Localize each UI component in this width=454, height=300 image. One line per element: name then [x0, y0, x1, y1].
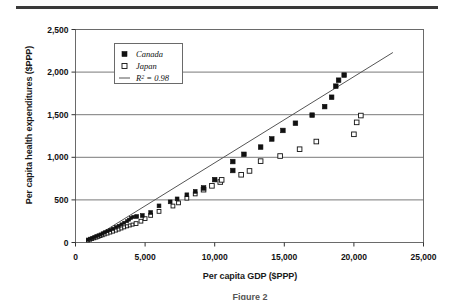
x-tick-label-20000: 20,000 [341, 252, 367, 262]
x-axis-title: Per capita GDP ($PPP) [75, 271, 425, 281]
data-point-canada-28 [201, 186, 206, 191]
data-point-canada-19 [132, 215, 135, 218]
data-point-canada-40 [334, 84, 339, 89]
data-point-canada-22 [149, 211, 153, 215]
x-tick-label-15000: 15,000 [271, 252, 297, 262]
x-tick-label-0: 0 [73, 252, 78, 262]
data-point-canada-25 [175, 197, 179, 201]
y-tick-label-500: 500 [54, 195, 68, 205]
data-point-canada-21 [140, 214, 144, 218]
y-tick-label-2000: 2,000 [47, 67, 69, 77]
data-point-japan-33 [247, 169, 252, 174]
scatter-chart: 05,00010,00015,00020,00025,000 05001,000… [0, 0, 454, 300]
data-point-japan-25 [177, 201, 181, 205]
x-tick-label-25000: 25,000 [411, 252, 437, 262]
data-point-japan-24 [171, 204, 175, 208]
data-point-canada-26 [185, 193, 189, 197]
data-point-japan-31 [219, 178, 224, 183]
y-tick-label-2500: 2,500 [47, 25, 69, 35]
data-point-canada-36 [293, 121, 298, 126]
data-point-japan-40 [359, 113, 364, 118]
data-point-japan-23 [157, 210, 161, 214]
data-point-japan-35 [278, 154, 283, 159]
data-point-canada-30 [230, 168, 235, 173]
legend-marker-japan [122, 64, 127, 69]
data-point-japan-38 [352, 132, 357, 137]
x-axis-tick-labels: 05,00010,00015,00020,00025,000 [73, 252, 437, 262]
data-point-japan-20 [139, 219, 143, 223]
chart-legend: CanadaJapanR2 = 0.98 [115, 44, 183, 84]
legend-label-r-0-98: R2 = 0.98 [135, 73, 170, 83]
data-point-canada-42 [342, 73, 347, 78]
data-point-canada-20 [135, 215, 139, 219]
data-point-canada-34 [269, 137, 274, 142]
data-point-japan-36 [297, 147, 302, 152]
x-tick-label-5000: 5,000 [134, 252, 156, 262]
data-point-japan-37 [314, 139, 319, 144]
y-tick-label-0: 0 [64, 238, 69, 248]
legend-label-canada: Canada [136, 49, 163, 59]
legend-marker-canada [122, 52, 127, 57]
y-tick-label-1500: 1,500 [47, 110, 69, 120]
data-point-canada-27 [193, 189, 197, 193]
y-axis-tick-labels: 05001,0001,5002,0002,500 [47, 25, 69, 248]
figure-container: Per capita health expenditures ($PPP) 05… [0, 0, 454, 300]
data-point-canada-31 [230, 159, 235, 164]
data-point-japan-39 [354, 120, 359, 125]
y-axis-tick-marks [72, 30, 76, 243]
legend-label-japan: Japan [136, 61, 157, 71]
x-tick-label-10000: 10,000 [202, 252, 228, 262]
data-point-japan-19 [134, 222, 138, 226]
data-point-canada-35 [281, 128, 286, 133]
y-tick-label-1000: 1,000 [47, 152, 69, 162]
data-point-canada-33 [258, 145, 263, 150]
data-point-canada-23 [157, 204, 161, 208]
data-point-japan-32 [239, 172, 244, 177]
data-point-canada-41 [336, 78, 341, 83]
data-point-japan-29 [210, 184, 215, 189]
figure-caption: Figure 2 [75, 292, 425, 300]
data-point-canada-29 [212, 177, 217, 182]
data-point-japan-18 [131, 223, 134, 226]
data-point-canada-39 [329, 95, 334, 100]
data-point-japan-34 [258, 159, 263, 164]
data-point-canada-37 [310, 113, 315, 118]
data-point-canada-32 [242, 152, 247, 157]
data-point-canada-24 [168, 200, 172, 204]
data-point-canada-38 [322, 104, 327, 109]
x-axis-tick-marks [76, 243, 424, 247]
